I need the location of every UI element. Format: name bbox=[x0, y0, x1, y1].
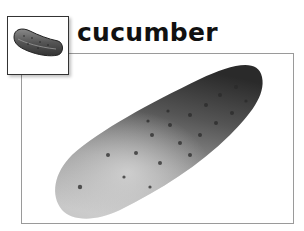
cucumber-illustration-icon bbox=[8, 17, 67, 73]
cucumber-photo bbox=[40, 55, 270, 223]
icon-box bbox=[7, 16, 69, 75]
card-title: cucumber bbox=[77, 18, 218, 48]
